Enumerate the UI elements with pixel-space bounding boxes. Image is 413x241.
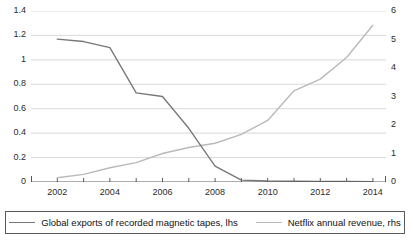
legend-swatch-icon-magnetic-tape xyxy=(9,222,35,223)
x-axis-tick-label: 2008 xyxy=(195,188,235,197)
x-axis-tick-label: 2004 xyxy=(90,188,130,197)
y-axis-left-tick-label: 1.4 xyxy=(13,6,26,15)
chart-legend: Global exports of recorded magnetic tape… xyxy=(5,211,405,234)
y-axis-right-tick-label: 2 xyxy=(391,120,396,129)
legend-item-netflix: Netflix annual revenue, rhs xyxy=(247,217,410,228)
y-axis-right-tick-label: 5 xyxy=(391,35,396,44)
y-axis-right-tick-label: 4 xyxy=(391,63,396,72)
plot-area xyxy=(31,11,386,182)
legend-label-magnetic-tape: Global exports of recorded magnetic tape… xyxy=(41,217,237,228)
x-axis-tick-label: 2014 xyxy=(353,188,393,197)
x-axis-tick-label: 2002 xyxy=(37,188,77,197)
y-axis-right-tick-label: 6 xyxy=(391,6,396,15)
series-line-magnetic-tape-exports xyxy=(57,39,373,182)
y-axis-right-tick-label: 3 xyxy=(391,92,396,101)
y-axis-right-tick-label: 0 xyxy=(391,177,396,186)
y-axis-left-tick-label: 1.2 xyxy=(13,30,26,39)
x-axis-tick-label: 2006 xyxy=(142,188,182,197)
y-axis-left-tick-label: 0.4 xyxy=(13,128,26,137)
x-axis-tick-label: 2012 xyxy=(300,188,340,197)
y-axis-left-tick-label: 0.8 xyxy=(13,79,26,88)
legend-label-netflix: Netflix annual revenue, rhs xyxy=(288,217,401,228)
y-axis-right-tick-label: 1 xyxy=(391,149,396,158)
gridlines xyxy=(31,11,386,158)
y-axis-left-tick-label: 0 xyxy=(21,177,26,186)
legend-item-magnetic-tape: Global exports of recorded magnetic tape… xyxy=(0,217,246,228)
y-axis-left-tick-label: 1 xyxy=(21,55,26,64)
y-axis-left-tick-label: 0.6 xyxy=(13,104,26,113)
chart-container: Global exports of recorded magnetic tape… xyxy=(0,0,413,241)
series-line-netflix-annual-revenue xyxy=(57,25,373,177)
y-axis-left-tick-label: 0.2 xyxy=(13,153,26,162)
chart-svg xyxy=(31,11,386,182)
legend-swatch-icon-netflix xyxy=(256,222,282,223)
x-axis-tick-label: 2010 xyxy=(248,188,288,197)
